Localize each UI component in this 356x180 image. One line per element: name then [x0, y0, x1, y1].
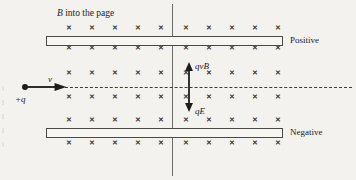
electric-force-arrow: [183, 87, 195, 112]
x-into-page-mark: ✕: [112, 94, 118, 101]
x-into-page-mark: ✕: [275, 117, 281, 124]
x-into-page-mark: ✕: [112, 70, 118, 77]
x-into-page-mark: ✕: [135, 94, 141, 101]
scan-artifact: [2, 86, 4, 91]
magnetic-force-arrow: [183, 62, 195, 87]
x-into-page-mark: ✕: [158, 140, 164, 147]
x-into-page-mark: ✕: [206, 94, 212, 101]
x-into-page-mark: ✕: [206, 117, 212, 124]
x-into-page-mark: ✕: [66, 117, 72, 124]
electric-force-label: qE: [195, 107, 205, 116]
x-into-page-mark: ✕: [252, 140, 258, 147]
x-into-page-mark: ✕: [275, 25, 281, 32]
particle-trajectory-line: [60, 87, 352, 88]
x-into-page-mark: ✕: [206, 25, 212, 32]
scan-artifact: [2, 100, 4, 105]
x-into-page-mark: ✕: [112, 117, 118, 124]
x-into-page-mark: ✕: [89, 94, 95, 101]
x-into-page-mark: ✕: [252, 94, 258, 101]
x-into-page-mark: ✕: [158, 25, 164, 32]
x-into-page-mark: ✕: [252, 70, 258, 77]
x-into-page-mark: ✕: [252, 25, 258, 32]
negative-plate-label: Negative: [290, 128, 322, 137]
x-into-page-mark: ✕: [229, 117, 235, 124]
x-into-page-mark: ✕: [275, 70, 281, 77]
scan-artifact: [2, 142, 4, 147]
x-into-page-mark: ✕: [183, 25, 189, 32]
x-into-page-mark: ✕: [66, 140, 72, 147]
x-into-page-mark: ✕: [89, 140, 95, 147]
velocity-arrow: [26, 80, 68, 94]
scan-artifact: [2, 114, 4, 119]
positive-plate: [46, 36, 283, 46]
x-into-page-mark: ✕: [229, 94, 235, 101]
x-into-page-mark: ✕: [275, 94, 281, 101]
x-into-page-mark: ✕: [89, 25, 95, 32]
scan-artifact: [2, 128, 4, 133]
x-into-page-mark: ✕: [89, 117, 95, 124]
x-into-page-mark: ✕: [135, 140, 141, 147]
x-into-page-mark: ✕: [229, 70, 235, 77]
magnetic-force-label: qvB: [195, 62, 209, 71]
positive-plate-label: Positive: [290, 36, 319, 45]
x-into-page-mark: ✕: [158, 94, 164, 101]
negative-plate: [46, 128, 283, 138]
x-into-page-mark: ✕: [158, 117, 164, 124]
x-into-page-mark: ✕: [112, 140, 118, 147]
x-into-page-mark: ✕: [135, 25, 141, 32]
field-label-suffix: into the page: [63, 8, 114, 18]
x-into-page-mark: ✕: [66, 94, 72, 101]
x-into-page-mark: ✕: [89, 70, 95, 77]
x-into-page-mark: ✕: [158, 70, 164, 77]
x-into-page-mark: ✕: [229, 25, 235, 32]
x-into-page-mark: ✕: [252, 117, 258, 124]
x-into-page-mark: ✕: [229, 140, 235, 147]
velocity-label: v: [48, 75, 52, 84]
vertical-axis-line: [172, 4, 173, 176]
charge-label: +q: [15, 95, 26, 104]
x-into-page-mark: ✕: [206, 140, 212, 147]
x-into-page-mark: ✕: [112, 25, 118, 32]
x-into-page-mark: ✕: [183, 117, 189, 124]
x-into-page-mark: ✕: [183, 140, 189, 147]
x-into-page-mark: ✕: [135, 70, 141, 77]
x-into-page-mark: ✕: [66, 25, 72, 32]
x-into-page-mark: ✕: [66, 70, 72, 77]
x-into-page-mark: ✕: [135, 117, 141, 124]
field-direction-label: B into the page: [57, 9, 114, 19]
x-into-page-mark: ✕: [275, 140, 281, 147]
physics-diagram-velocity-selector: ✕✕✕✕✕✕✕✕✕✕✕✕✕✕✕✕✕✕✕✕✕✕✕✕✕✕✕✕✕✕✕✕✕✕✕✕✕✕✕✕…: [0, 0, 356, 180]
